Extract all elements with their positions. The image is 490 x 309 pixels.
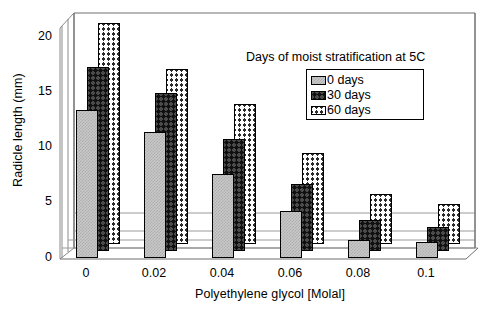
x-tick-0.06: 0.06 [260,266,320,280]
bar-group [68,18,130,258]
bar-0-days [416,242,438,258]
bar-group [136,18,198,258]
bar-chart: 20 15 10 5 0 Radicle length (mm) [0,0,490,309]
x-tick-0.1: 0.1 [396,266,456,280]
legend-label-0-days: 0 days [327,74,364,87]
legend-label-60-days: 60 days [327,104,371,117]
x-tick-0.02: 0.02 [124,266,184,280]
legend-item-0-days: 0 days [311,73,419,88]
legend-item-60-days: 60 days [311,103,419,118]
legend-title: Days of moist stratification at 5C [246,50,466,66]
legend-swatch-0-days [311,76,326,85]
bar-0-days [348,240,370,258]
legend-swatch-60-days [311,106,326,115]
bar-0-days [76,110,98,258]
y-axis-title: Radicle length (mm) [11,40,31,220]
legend: 0 days 30 days 60 days [306,69,424,120]
x-tick-0: 0 [56,266,116,280]
x-tick-0.04: 0.04 [192,266,252,280]
legend-item-30-days: 30 days [311,88,419,103]
bar-0-days [280,211,302,258]
bar-0-days [212,174,234,258]
bar-0-days [144,132,166,258]
x-tick-0.08: 0.08 [328,266,388,280]
legend-label-30-days: 30 days [327,89,371,102]
y-tick-0: 0 [22,250,52,264]
x-axis-title: Polyethylene glycol [Molal] [60,287,480,305]
legend-swatch-30-days [311,91,326,100]
